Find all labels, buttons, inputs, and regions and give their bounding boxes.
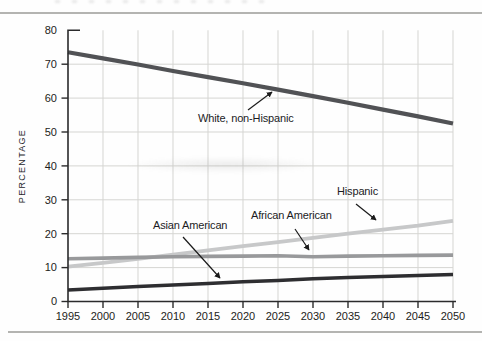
svg-text:1995: 1995: [56, 310, 80, 322]
svg-text:10: 10: [45, 261, 57, 273]
svg-text:0: 0: [51, 295, 57, 307]
scan-smudge: [122, 156, 312, 174]
annotation-asian-american: Asian American: [153, 219, 227, 231]
svg-text:2010: 2010: [161, 310, 185, 322]
svg-text:2025: 2025: [266, 310, 290, 322]
annotation-african-american: African American: [251, 209, 332, 221]
svg-text:2045: 2045: [406, 310, 430, 322]
annotation-hispanic: Hispanic: [337, 185, 378, 197]
svg-text:80: 80: [45, 24, 57, 36]
svg-text:20: 20: [45, 228, 57, 240]
svg-text:2035: 2035: [336, 310, 360, 322]
svg-text:2030: 2030: [301, 310, 325, 322]
scanned-figure-page: PERCENTAGE 01020304050607080199520002005…: [0, 0, 482, 341]
svg-text:2005: 2005: [126, 310, 150, 322]
annotation-white-non-hispanic: White, non-Hispanic: [198, 112, 294, 124]
svg-text:2020: 2020: [231, 310, 255, 322]
svg-text:60: 60: [45, 92, 57, 104]
svg-text:2040: 2040: [371, 310, 395, 322]
svg-text:2015: 2015: [196, 310, 220, 322]
svg-text:2050: 2050: [441, 310, 465, 322]
svg-text:30: 30: [45, 194, 57, 206]
svg-text:2000: 2000: [91, 310, 115, 322]
bottom-rule: [8, 331, 482, 333]
svg-text:50: 50: [45, 126, 57, 138]
svg-text:70: 70: [45, 58, 57, 70]
svg-text:40: 40: [45, 160, 57, 172]
